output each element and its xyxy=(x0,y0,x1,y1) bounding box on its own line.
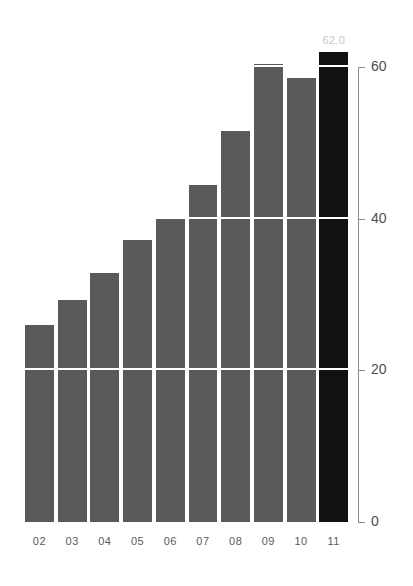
bar-11[interactable] xyxy=(319,52,348,522)
bar-value-label-11: 62.0 xyxy=(322,34,345,46)
bar-slot xyxy=(90,22,119,522)
bar-slot xyxy=(287,22,316,522)
x-axis-label-11: 11 xyxy=(319,535,348,547)
bar-04[interactable] xyxy=(90,273,119,522)
y-tick-label-0: 0 xyxy=(371,513,379,529)
bar-slot xyxy=(156,22,185,522)
x-axis-label-04: 04 xyxy=(90,535,119,547)
bar-slot xyxy=(221,22,250,522)
bar-02[interactable] xyxy=(25,325,54,522)
y-tick-label-20: 20 xyxy=(371,361,387,377)
x-axis-label-05: 05 xyxy=(123,535,152,547)
bar-07[interactable] xyxy=(189,185,218,522)
x-axis-label-10: 10 xyxy=(287,535,316,547)
bar-05[interactable] xyxy=(123,240,152,522)
y-tick-mark xyxy=(358,522,365,523)
bar-08[interactable] xyxy=(221,131,250,522)
x-axis: 02030405060708091011 xyxy=(25,535,352,559)
plot-area: 62.0 xyxy=(25,22,352,522)
y-tick-label-60: 60 xyxy=(371,58,387,74)
bar-slot xyxy=(254,22,283,522)
x-axis-label-07: 07 xyxy=(189,535,218,547)
bar-slot: 62.0 xyxy=(319,22,348,522)
bar-slot xyxy=(123,22,152,522)
y-axis: 0204060 xyxy=(358,55,413,535)
bar-10[interactable] xyxy=(287,78,316,522)
x-axis-label-06: 06 xyxy=(156,535,185,547)
y-tick-mark xyxy=(358,219,365,220)
bar-slot xyxy=(58,22,87,522)
x-axis-label-09: 09 xyxy=(254,535,283,547)
y-tick-mark xyxy=(358,370,365,371)
y-axis-line xyxy=(358,67,359,522)
y-tick-mark xyxy=(358,67,365,68)
bar-03[interactable] xyxy=(58,300,87,522)
x-axis-label-03: 03 xyxy=(58,535,87,547)
x-axis-label-08: 08 xyxy=(221,535,250,547)
y-tick-label-40: 40 xyxy=(371,210,387,226)
bar-09[interactable] xyxy=(254,64,283,522)
bar-slot xyxy=(189,22,218,522)
bar-06[interactable] xyxy=(156,217,185,522)
bar-chart: 62.0 0204060 02030405060708091011 xyxy=(0,0,413,586)
bar-slot xyxy=(25,22,54,522)
x-axis-label-02: 02 xyxy=(25,535,54,547)
